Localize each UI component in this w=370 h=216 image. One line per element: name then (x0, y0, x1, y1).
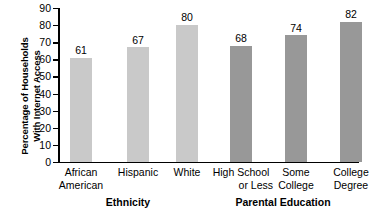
y-axis-line (58, 8, 60, 163)
y-tick-label-90: 90 (11, 3, 51, 13)
bar-value-african-american: 61 (61, 45, 101, 55)
bar-value-white: 80 (167, 12, 207, 22)
y-tick-30 (53, 111, 58, 112)
bar-value-hispanic: 67 (118, 35, 158, 45)
bar-chart: Percentage of Households With Internet A… (0, 0, 370, 216)
y-tick-label-80: 80 (11, 20, 51, 30)
bar-college-degree (340, 22, 362, 162)
bar-value-college-degree: 82 (331, 9, 370, 19)
y-tick-60 (53, 59, 58, 60)
x-label-college-degree-line-2: Degree (315, 179, 370, 192)
y-tick-70 (53, 42, 58, 43)
y-tick-label-30: 30 (11, 106, 51, 116)
y-tick-label-40: 40 (11, 89, 51, 99)
bar-some-college (285, 35, 307, 162)
y-tick-50 (53, 76, 58, 77)
y-tick-10 (53, 145, 58, 146)
bar-value-some-college: 74 (276, 23, 316, 33)
group-title-ethnicity: Ethnicity (48, 196, 208, 208)
bar-hispanic (127, 47, 149, 162)
group-title-parental-education: Parental Education (203, 196, 363, 208)
y-tick-90 (53, 8, 58, 9)
y-tick-0 (53, 162, 58, 163)
y-tick-label-10: 10 (11, 140, 51, 150)
y-tick-20 (53, 128, 58, 129)
bar-high-school-or-less (230, 46, 252, 162)
y-tick-label-70: 70 (11, 37, 51, 47)
bar-african-american (70, 58, 92, 162)
y-tick-label-50: 50 (11, 71, 51, 81)
y-tick-80 (53, 25, 58, 26)
x-label-college-degree: College Degree (315, 166, 370, 191)
bar-value-high-school-or-less: 68 (221, 33, 261, 43)
bar-white (176, 25, 198, 162)
y-tick-label-60: 60 (11, 54, 51, 64)
y-tick-label-20: 20 (11, 123, 51, 133)
x-label-african-american-line-2: American (45, 179, 117, 192)
x-label-college-degree-line-1: College (315, 166, 370, 179)
x-axis-line (58, 162, 359, 164)
y-tick-40 (53, 94, 58, 95)
